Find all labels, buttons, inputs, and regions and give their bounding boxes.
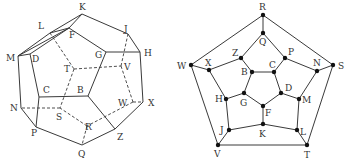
diagram-canvas: KLFJHGMDTVCBNSWXPRZQ RQZPXWNSBCDGMHFKJLV… xyxy=(0,0,349,166)
left-vertex-label-C: C xyxy=(43,85,50,95)
graph-edge-J-K xyxy=(229,124,263,130)
hidden-edge-R-S xyxy=(60,108,87,126)
left-vertex-label-L: L xyxy=(38,21,44,31)
edge-J-H xyxy=(128,34,140,52)
left-vertex-label-D: D xyxy=(32,54,39,64)
vertex-dot-C xyxy=(272,70,276,74)
left-vertex-label-B: B xyxy=(77,85,84,95)
edge-D-F xyxy=(30,28,69,54)
left-vertex-label-K: K xyxy=(79,2,86,12)
graph-edge-Z-X xyxy=(209,58,241,70)
right-vertex-label-T: T xyxy=(304,150,310,160)
vertex-dot-W xyxy=(189,63,193,67)
vertex-dot-Z xyxy=(239,56,243,60)
vertex-dot-G xyxy=(242,91,246,95)
graph-edge-R-W xyxy=(191,15,263,65)
right-vertex-label-V: V xyxy=(213,149,221,159)
right-vertex-label-K: K xyxy=(259,129,266,139)
left-vertex-label-F: F xyxy=(69,30,75,40)
vertex-dot-R xyxy=(261,13,265,17)
vertex-dot-K xyxy=(261,122,265,126)
vertex-dot-J xyxy=(227,128,231,132)
right-vertex-label-Z: Z xyxy=(232,48,238,58)
left-vertex-label-G: G xyxy=(95,50,102,60)
right-vertex-labels: RQZPXWNSBCDGMHFKJLVT xyxy=(177,2,344,160)
edge-B-C xyxy=(39,96,88,97)
vertex-dot-S xyxy=(331,63,335,67)
right-vertex-label-S: S xyxy=(338,61,344,71)
vertex-dot-N xyxy=(315,69,319,73)
right-vertex-label-H: H xyxy=(215,94,223,104)
hidden-edge-T-S xyxy=(60,69,74,108)
right-vertex-label-N: N xyxy=(313,58,321,68)
left-vertex-label-Z: Z xyxy=(117,132,123,142)
vertex-dot-T xyxy=(305,143,309,147)
graph-edge-D-F xyxy=(263,93,281,106)
edge-P-N xyxy=(21,108,36,127)
hidden-edge-T-V xyxy=(74,66,121,69)
right-vertex-label-W: W xyxy=(177,61,187,71)
vertex-dot-M xyxy=(297,97,301,101)
graph-edge-H-J xyxy=(226,99,229,130)
right-vertex-label-L: L xyxy=(300,127,306,137)
right-vertex-label-B: B xyxy=(241,67,248,77)
vertex-dot-L xyxy=(295,128,299,132)
graph-edge-R-S xyxy=(263,15,333,65)
edge-B-Z xyxy=(88,96,115,129)
graph-edge-K-L xyxy=(263,124,297,130)
vertex-dot-D xyxy=(279,91,283,95)
graph-edge-M-L xyxy=(297,99,299,130)
graph-edge-S-T xyxy=(307,65,333,145)
edge-C-P xyxy=(36,97,39,127)
right-vertex-label-X: X xyxy=(205,58,212,68)
vertex-dot-V xyxy=(216,143,220,147)
right-vertex-label-C: C xyxy=(269,60,276,70)
vertex-dot-B xyxy=(250,70,254,74)
left-vertex-label-H: H xyxy=(144,48,152,58)
edge-M-L xyxy=(18,33,50,56)
left-vertex-label-X: X xyxy=(148,98,155,108)
left-vertex-label-V: V xyxy=(123,62,131,72)
left-vertex-label-M: M xyxy=(6,53,15,63)
right-vertex-label-M: M xyxy=(302,95,311,105)
right-vertex-label-G: G xyxy=(240,98,247,108)
left-vertex-label-Q: Q xyxy=(78,149,85,159)
right-vertex-label-J: J xyxy=(219,125,224,135)
left-vertex-label-R: R xyxy=(85,122,92,132)
left-vertex-label-J: J xyxy=(123,24,128,34)
vertex-dot-Q xyxy=(261,31,265,35)
left-vertex-label-W: W xyxy=(118,98,128,108)
edge-K-J xyxy=(82,14,128,34)
edge-N-M xyxy=(18,56,21,108)
vertex-dot-H xyxy=(224,97,228,101)
edge-H-X xyxy=(140,52,143,102)
left-vertex-labels: KLFJHGMDTVCBNSWXPRZQ xyxy=(6,2,155,159)
edge-M-F xyxy=(18,28,69,56)
vertex-dot-X xyxy=(207,68,211,72)
graph-edge-W-V xyxy=(191,65,218,145)
left-vertex-label-S: S xyxy=(56,112,62,122)
right-vertex-label-Q: Q xyxy=(259,37,266,47)
right-vertex-label-F: F xyxy=(265,108,271,118)
right-vertex-label-D: D xyxy=(285,83,292,93)
graph-edge-C-D xyxy=(274,72,281,93)
edge-Q-P xyxy=(36,127,82,145)
vertex-dot-P xyxy=(283,56,287,60)
graph-edge-D-M xyxy=(281,93,299,99)
left-vertex-label-N: N xyxy=(10,103,18,113)
left-vertex-label-T: T xyxy=(64,64,70,74)
right-vertex-label-R: R xyxy=(259,2,266,12)
right-vertex-label-P: P xyxy=(288,47,294,57)
left-vertex-label-P: P xyxy=(31,128,37,138)
